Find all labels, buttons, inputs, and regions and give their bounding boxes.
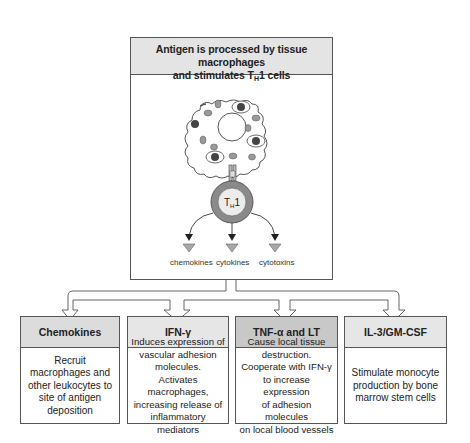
effect-header: IL-3/GM-CSF [345, 317, 446, 348]
macrophage-icon [185, 100, 267, 178]
effect-box-chemokines: Chemokines Recruit macrophages and other… [20, 316, 120, 424]
effect-box-ifn-gamma: IFN-γ Induces expression of vascular adh… [127, 316, 229, 424]
effect-description: Induces expression of vascular adhesion … [128, 348, 228, 424]
effect-description: Stimulate monocyte production by bone ma… [345, 348, 446, 424]
effect-box-il3-gmcsf: IL-3/GM-CSF Stimulate monocyte productio… [344, 316, 447, 424]
effect-box-tnf-alpha-lt: TNF-α and LT Cause local tissue destruct… [235, 316, 338, 424]
branching-arrows [62, 280, 405, 321]
th1-cell-icon: TH1 [211, 181, 253, 223]
effect-header: Chemokines [21, 317, 119, 348]
product-label-chemokines: chemokines [170, 258, 213, 267]
effect-description: Recruit macrophages and other leukocytes… [21, 348, 119, 424]
product-label-cytotoxins: cytotoxins [259, 258, 295, 267]
product-triangles [183, 244, 281, 252]
product-label-cytokines: cytokines [216, 258, 249, 267]
effect-description: Cause local tissue destruction. Cooperat… [236, 348, 337, 424]
